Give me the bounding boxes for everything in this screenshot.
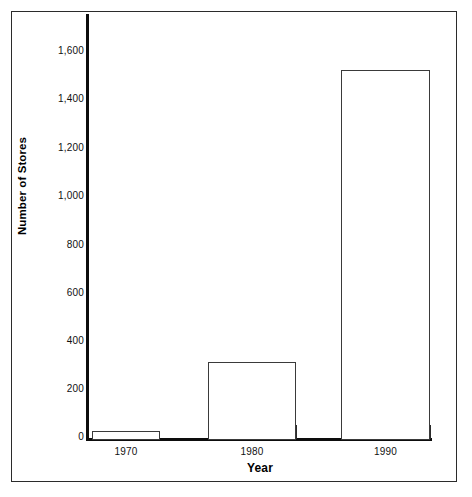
x-tick-label-1980: 1980: [208, 446, 296, 457]
y-tick-label-1000: 1,000: [40, 191, 84, 201]
y-tick-label-1600: 1,600: [40, 46, 84, 56]
y-tick-label-0: 0: [40, 432, 84, 442]
x-axis-tick-2: [296, 425, 297, 439]
y-tick-label-200: 200: [40, 384, 84, 394]
x-tick-label-1990: 1990: [341, 446, 430, 457]
x-tick-label-1970: 1970: [92, 446, 160, 457]
y-tick-label-600: 600: [40, 288, 84, 298]
y-tick-label-1400: 1,400: [40, 94, 84, 104]
y-axis-line: [86, 14, 89, 441]
y-axis-title: Number of Stores: [16, 126, 28, 246]
bar-1970[interactable]: [92, 431, 160, 440]
bar-chart-figure: Number of Stores 1,600 1,400 1,200 1,000…: [0, 0, 472, 497]
y-tick-label-800: 800: [40, 240, 84, 250]
y-tick-label-400: 400: [40, 336, 84, 346]
bar-1980[interactable]: [208, 362, 296, 440]
y-axis-tick-labels: 1,600 1,400 1,200 1,000 800 600 400 200 …: [36, 0, 84, 497]
x-axis-tick-4: [430, 425, 431, 439]
y-tick-label-1200: 1,200: [40, 143, 84, 153]
x-axis-title: Year: [88, 461, 432, 475]
bar-1990[interactable]: [341, 70, 430, 440]
